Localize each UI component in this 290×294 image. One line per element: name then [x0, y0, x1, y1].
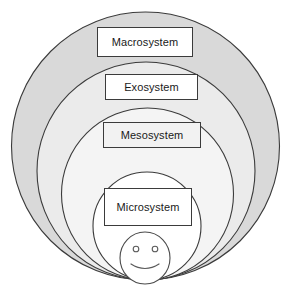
- label-exosystem: Exosystem: [105, 74, 198, 100]
- ecological-systems-diagram: Macrosystem Exosystem Mesosystem Microsy…: [0, 0, 290, 294]
- smiley-head-icon: [120, 232, 170, 284]
- label-macrosystem-text: Macrosystem: [112, 37, 179, 48]
- smiley-left-eye-icon: [133, 246, 139, 252]
- label-exosystem-text: Exosystem: [124, 82, 179, 93]
- label-macrosystem: Macrosystem: [97, 27, 193, 57]
- smiley-right-eye-icon: [152, 246, 158, 252]
- label-microsystem-text: Microsystem: [117, 202, 180, 213]
- label-mesosystem-text: Mesosystem: [121, 130, 184, 141]
- label-mesosystem: Mesosystem: [103, 122, 201, 148]
- child-smiley-face: [120, 232, 170, 284]
- label-microsystem: Microsystem: [104, 188, 192, 226]
